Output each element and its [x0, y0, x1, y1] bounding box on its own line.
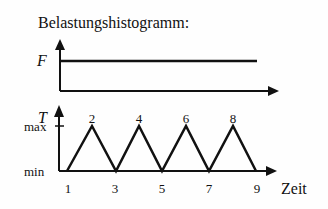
x-tick-5: 5	[159, 181, 166, 196]
x-tick-9: 9	[254, 181, 261, 196]
force-chart: F	[36, 39, 279, 96]
temperature-curve	[67, 126, 256, 171]
diagram-title: Belastungshistogramm:	[38, 14, 189, 32]
f-axis-arrow-icon	[55, 39, 65, 50]
x-tick-7: 7	[206, 181, 213, 196]
x-tick-3: 3	[112, 181, 119, 196]
temperature-chart: T max min 2 4 6 8 1 3 5 7 9 Zeit	[24, 105, 307, 197]
x-tick-1: 1	[65, 181, 72, 196]
max-label: max	[24, 119, 47, 134]
min-label: min	[24, 164, 45, 179]
top-time-axis-arrow-icon	[268, 86, 279, 96]
t-axis-arrow-icon	[54, 105, 64, 117]
peak-label-8: 8	[230, 111, 237, 126]
x-axis-label: Zeit	[281, 180, 307, 197]
load-histogram-diagram: Belastungshistogramm: F T max min 2 4 6 …	[0, 0, 328, 209]
peak-label-4: 4	[136, 111, 143, 126]
f-label: F	[36, 52, 47, 69]
peak-label-6: 6	[183, 111, 190, 126]
peak-label-2: 2	[89, 111, 96, 126]
time-axis-arrow-icon	[266, 166, 277, 176]
